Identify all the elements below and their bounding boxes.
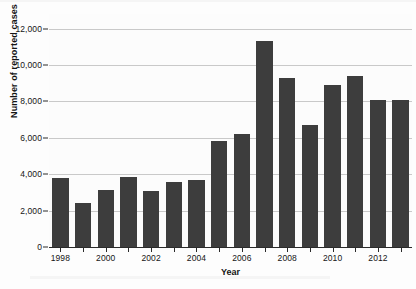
x-axis-tick-mark (355, 247, 356, 252)
plot-area (49, 14, 412, 247)
x-axis-title: Year (49, 267, 412, 277)
bar (166, 182, 182, 247)
x-axis-tick-mark (219, 247, 220, 252)
bar (188, 180, 204, 247)
bar (302, 125, 318, 247)
bar (324, 85, 340, 247)
bar (211, 141, 227, 247)
bar (279, 78, 295, 247)
x-axis-tick-mark (378, 247, 379, 252)
bar (98, 190, 114, 247)
y-axis-tick-label: 6,000 (20, 133, 42, 143)
x-axis-tick-label: 2008 (278, 253, 297, 263)
y-axis-tick-mark (43, 247, 48, 248)
x-axis-tick-mark (151, 247, 152, 252)
x-axis-tick-mark (174, 247, 175, 252)
x-axis-tick-label: 2010 (323, 253, 342, 263)
x-axis-tick-mark (196, 247, 197, 252)
y-axis-tick-mark (43, 137, 48, 138)
gridline (49, 29, 412, 30)
x-axis-tick-label: 2004 (187, 253, 206, 263)
y-axis-tick-label: 4,000 (20, 169, 42, 179)
y-axis-tick-mark (43, 210, 48, 211)
x-axis-tick-mark (60, 247, 61, 252)
x-axis-tick-label: 2000 (96, 253, 115, 263)
y-axis-tick-label: 2,000 (20, 206, 42, 216)
x-axis-tick-mark (401, 247, 402, 252)
x-axis-tick-mark (106, 247, 107, 252)
y-axis-tick-label: 0 (37, 242, 42, 252)
scan-artifact (0, 0, 416, 2)
bar (392, 100, 408, 247)
x-axis-tick-mark (242, 247, 243, 252)
bar (347, 76, 363, 247)
y-axis-tick-label: 8,000 (20, 96, 42, 106)
y-axis-tick-mark (43, 28, 48, 29)
x-axis-tick-mark (333, 247, 334, 252)
x-axis-tick-mark (128, 247, 129, 252)
bar (234, 134, 250, 247)
bar (75, 203, 91, 247)
x-axis-tick-mark (287, 247, 288, 252)
y-axis-tick-label: 10,000 (15, 60, 42, 70)
gridline (49, 65, 412, 66)
y-axis-ticks: 02,0004,0006,0008,00010,00012,000 (0, 0, 48, 289)
x-axis-tick-mark (310, 247, 311, 252)
x-axis-tick-label: 1998 (51, 253, 70, 263)
y-axis-tick-mark (43, 64, 48, 65)
bar (256, 41, 272, 247)
bar-chart-figure: Number of reported cases 02,0004,0006,00… (0, 0, 416, 289)
bar (370, 100, 386, 247)
bar (52, 178, 68, 247)
y-axis-tick-mark (43, 101, 48, 102)
y-axis-tick-mark (43, 174, 48, 175)
x-axis-line (49, 247, 412, 248)
x-axis-tick-label: 2012 (368, 253, 387, 263)
x-axis-tick-mark (83, 247, 84, 252)
x-axis-tick-label: 2002 (141, 253, 160, 263)
bar (143, 191, 159, 247)
y-axis-tick-label: 12,000 (15, 24, 42, 34)
x-axis-tick-label: 2006 (232, 253, 251, 263)
x-axis-tick-mark (265, 247, 266, 252)
bar (120, 177, 136, 247)
